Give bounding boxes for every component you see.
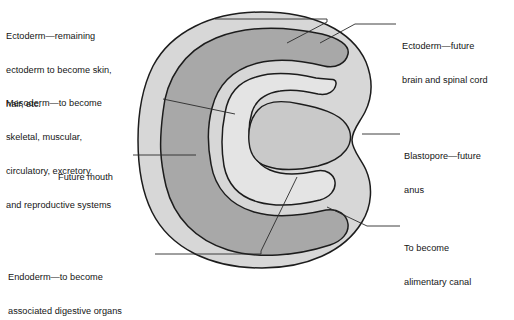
label-line: Blastopore—future [404,151,481,162]
label-line: anus [404,185,481,196]
label-endoderm: Endoderm—to become associated digestive … [8,249,122,320]
label-blastopore: Blastopore—future anus [404,128,481,208]
label-line: Mesoderm—to become [6,98,111,109]
label-line: and reproductive systems [6,200,111,211]
label-line: Ectoderm—remaining [6,31,112,42]
label-line: Endoderm—to become [8,272,122,283]
label-line: Ectoderm—future [402,41,488,52]
label-future-mouth: Future mouth [58,149,113,195]
label-line: alimentary canal [404,277,471,288]
label-ectoderm-neural: Ectoderm—future brain and spinal cord [402,18,488,98]
label-alimentary-canal: To become alimentary canal [404,220,471,300]
label-line: skeletal, muscular, [6,132,111,143]
embryo-cross-section [138,12,371,268]
label-line: brain and spinal cord [402,75,488,86]
label-line: Future mouth [58,172,113,183]
label-line: To become [404,243,471,254]
label-line: associated digestive organs [8,306,122,317]
